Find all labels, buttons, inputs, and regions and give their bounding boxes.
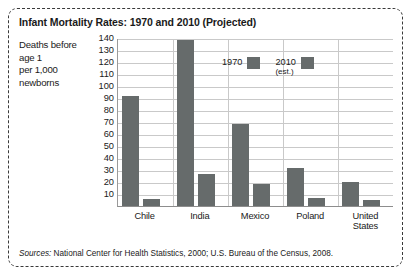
bar — [363, 200, 380, 206]
y-axis-label-line-3: per 1,000 — [19, 64, 93, 77]
y-tick-label: 140 — [98, 34, 114, 43]
legend-label-1970: 1970 — [222, 57, 242, 67]
bar — [143, 199, 160, 206]
chart-figure: Infant Mortality Rates: 1970 and 2010 (P… — [8, 8, 403, 267]
y-axis-label-line-4: newborns — [19, 77, 93, 90]
y-tick-label: 10 — [104, 190, 114, 199]
sources-text: National Center for Health Statistics, 2… — [51, 249, 333, 258]
y-tick-label: 20 — [104, 178, 114, 187]
x-tick-label-line: Chile — [117, 211, 172, 221]
legend-item-1970: 1970 — [222, 57, 260, 69]
legend-swatch-1970 — [247, 57, 260, 69]
y-tick-label: 90 — [104, 94, 114, 103]
bar — [122, 96, 139, 206]
x-tick-label: UnitedStates — [338, 211, 393, 232]
y-tick-label: 120 — [98, 58, 114, 67]
x-tick-label: Chile — [117, 211, 172, 221]
chart-title: Infant Mortality Rates: 1970 and 2010 (P… — [19, 16, 256, 28]
x-tick-label-line: United — [338, 211, 393, 221]
bar-group — [118, 39, 173, 206]
y-tick-label: 60 — [104, 130, 114, 139]
y-tick-label: 130 — [98, 46, 114, 55]
y-tick-label: 40 — [104, 154, 114, 163]
bar — [177, 40, 194, 206]
x-tick-label-line: Poland — [283, 211, 338, 221]
bar — [308, 198, 325, 206]
legend-item-2010: 2010 (est.) — [275, 57, 313, 76]
legend-label-2010: 2010 (est.) — [275, 57, 295, 76]
legend-label-2010-sub: (est.) — [275, 67, 295, 76]
x-tick-label: India — [172, 211, 227, 221]
y-axis-label-line-2: age 1 — [19, 52, 93, 65]
bar — [287, 168, 304, 206]
bar — [198, 174, 215, 206]
x-tick-label: Poland — [283, 211, 338, 221]
y-tick-label: 110 — [99, 70, 114, 79]
y-tick-label: 100 — [98, 82, 114, 91]
y-tick-label: 70 — [104, 118, 114, 127]
bar — [342, 182, 359, 206]
x-tick-label: Mexico — [227, 211, 282, 221]
y-tick-label: 80 — [104, 106, 114, 115]
y-tick-label: 50 — [104, 142, 114, 151]
y-axis-label-line-1: Deaths before — [19, 39, 93, 52]
bar-group — [338, 39, 393, 206]
y-axis-ticks: 102030405060708090100110120130140 — [93, 39, 114, 207]
legend-label-2010-main: 2010 — [275, 57, 295, 67]
chart-legend: 1970 2010 (est.) — [222, 57, 314, 76]
sources-note: Sources: National Center for Health Stat… — [19, 249, 333, 259]
legend-swatch-2010 — [301, 57, 314, 69]
x-tick-label-line: States — [338, 221, 393, 231]
y-tick-label: 30 — [104, 166, 114, 175]
sources-label: Sources: — [19, 249, 51, 258]
x-tick-label-line: India — [172, 211, 227, 221]
bar — [232, 124, 249, 206]
bar — [253, 184, 270, 206]
x-axis-ticks: ChileIndiaMexicoPolandUnitedStates — [117, 209, 393, 237]
bar-group — [173, 39, 228, 206]
y-axis-label: Deaths before age 1 per 1,000 newborns — [19, 39, 93, 89]
x-tick-label-line: Mexico — [227, 211, 282, 221]
